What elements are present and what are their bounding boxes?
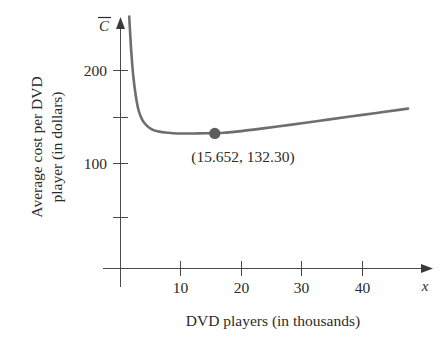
minimum-point-marker: [209, 128, 220, 139]
chart-figure: 200 100 C 10 20 30 40 x: [0, 0, 442, 349]
y-axis-arrow-icon: [116, 17, 125, 29]
y-tick-label-100: 100: [84, 155, 108, 172]
y-axis-title-line1: Average cost per DVD: [28, 76, 45, 217]
y-tick-label-200: 200: [84, 62, 108, 79]
x-axis-title: DVD players (in thousands): [186, 312, 360, 330]
x-tick-label-30: 30: [294, 279, 310, 296]
minimum-point-annotation: (15.652, 132.30): [191, 148, 294, 166]
x-axis-variable-label: x: [421, 278, 429, 294]
average-cost-curve: [129, 17, 408, 134]
x-axis-group: 10 20 30 40 x: [103, 261, 433, 296]
x-tick-label-20: 20: [234, 279, 250, 296]
chart-canvas: 200 100 C 10 20 30 40 x: [0, 0, 442, 349]
y-axis-group: 200 100 C: [84, 17, 128, 287]
y-axis-title-line2: player (in dollars): [48, 91, 66, 202]
y-axis-title-group: Average cost per DVD player (in dollars): [28, 76, 66, 217]
x-tick-label-40: 40: [355, 279, 371, 296]
y-axis-variable-group: C: [98, 18, 111, 35]
x-tick-label-10: 10: [173, 279, 189, 296]
y-axis-variable-label: C: [99, 18, 110, 34]
x-axis-arrow-icon: [421, 264, 433, 273]
